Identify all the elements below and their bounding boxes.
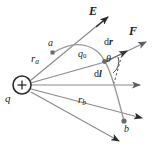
trajectory-curve bbox=[53, 45, 124, 121]
line-ra-to-E bbox=[31, 20, 105, 81]
vector-lower-ray bbox=[31, 92, 119, 141]
vector-rb bbox=[31, 89, 142, 118]
label-source-charge: q bbox=[5, 93, 11, 104]
label-angle-theta: θ bbox=[106, 54, 111, 64]
label-point-a: a bbox=[48, 38, 53, 48]
label-dr-r: r bbox=[109, 36, 113, 47]
label-rb-subscript: b bbox=[82, 98, 86, 107]
label-q0: q0 bbox=[78, 49, 86, 60]
label-ra: ra bbox=[31, 53, 39, 65]
vector-E-arrow bbox=[96, 17, 108, 27]
label-vector-F: F bbox=[129, 25, 137, 37]
label-ra-subscript: a bbox=[35, 57, 39, 66]
label-q0-subscript: 0 bbox=[83, 52, 86, 59]
label-vector-E: E bbox=[89, 5, 97, 17]
label-dr: dr bbox=[104, 37, 113, 47]
label-dl-l: l bbox=[99, 68, 102, 79]
point-a-marker bbox=[51, 51, 55, 55]
physics-diagram-figure: q a ra q0 E F dr dl θ rb b bbox=[0, 0, 160, 158]
label-dl: dl bbox=[94, 69, 102, 79]
label-rb: rb bbox=[78, 94, 86, 106]
label-point-b: b bbox=[124, 124, 129, 134]
